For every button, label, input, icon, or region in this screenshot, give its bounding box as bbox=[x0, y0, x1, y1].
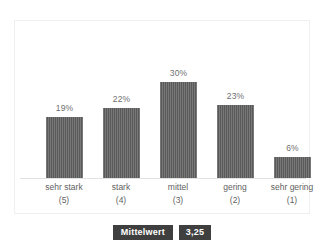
bar-rect-5[interactable] bbox=[274, 157, 311, 178]
x-tick-name-5: sehr gering bbox=[256, 181, 324, 194]
bar-column: 23% bbox=[217, 20, 254, 178]
bar-group-stark: 22% bbox=[93, 20, 150, 178]
bar-chart-widget: 19% 22% 30% 23% 6% bbox=[0, 0, 324, 245]
bar-group-sehr-gering: 6% bbox=[264, 20, 321, 178]
bar-group-mittel: 30% bbox=[150, 20, 207, 178]
bar-column: 6% bbox=[274, 20, 311, 178]
x-axis-tick-labels: sehr stark (5) stark (4) mittel (3) geri… bbox=[14, 181, 310, 213]
bar-rect-1[interactable] bbox=[46, 117, 83, 178]
bar-column: 30% bbox=[160, 20, 197, 178]
x-tick-rank-5: (1) bbox=[256, 194, 324, 207]
bar-rect-2[interactable] bbox=[103, 108, 140, 178]
mean-summary: Mittelwert 3,25 bbox=[0, 225, 324, 240]
bar-group-sehr-stark: 19% bbox=[36, 20, 93, 178]
plot-area: 19% 22% 30% 23% 6% bbox=[14, 20, 310, 178]
bar-value-label-3: 30% bbox=[170, 69, 187, 78]
mean-label-badge: Mittelwert bbox=[113, 225, 173, 240]
x-tick-sehr-gering: sehr gering (1) bbox=[256, 181, 324, 207]
x-axis-baseline bbox=[20, 178, 306, 179]
bar-value-label-4: 23% bbox=[227, 92, 244, 101]
bar-column: 22% bbox=[103, 20, 140, 178]
bar-column: 19% bbox=[46, 20, 83, 178]
bar-value-label-5: 6% bbox=[286, 144, 299, 153]
mean-value-badge: 3,25 bbox=[179, 225, 211, 240]
bar-rect-4[interactable] bbox=[217, 105, 254, 178]
bar-value-label-2: 22% bbox=[113, 95, 130, 104]
bar-group-gering: 23% bbox=[207, 20, 264, 178]
bar-rect-3[interactable] bbox=[160, 82, 197, 178]
bar-value-label-1: 19% bbox=[56, 104, 73, 113]
